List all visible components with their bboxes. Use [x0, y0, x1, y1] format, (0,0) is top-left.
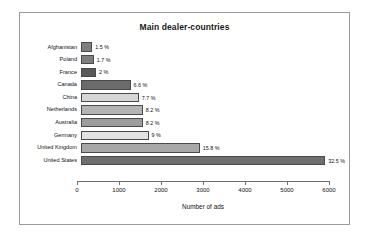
bar-value-label: 7.7 %: [139, 95, 156, 101]
bar-value-label: 8.2 %: [143, 120, 160, 126]
bar: [81, 105, 143, 114]
category-label: Poland: [20, 57, 81, 63]
x-axis-tick: [161, 181, 162, 185]
bar-value-label: 1.7 %: [94, 57, 111, 63]
bar-value-label: 2 %: [96, 69, 108, 75]
bar-track: 1.5 %: [81, 41, 351, 54]
bar: [81, 68, 96, 77]
bar: [81, 93, 139, 102]
bar: [81, 131, 149, 140]
x-axis-tick-label: 3000: [196, 187, 209, 193]
category-label: Germany: [20, 133, 81, 139]
bar-row: Poland1.7 %: [20, 54, 351, 67]
x-axis-tick: [329, 181, 330, 185]
bar-track: 7.7 %: [81, 91, 351, 104]
category-label: Netherlands: [20, 107, 81, 113]
bar-row: France2 %: [20, 66, 351, 79]
bar-row: Afghanistan1.5 %: [20, 41, 351, 54]
bar-row: Netherlands8.2 %: [20, 104, 351, 117]
x-axis-tick-label: 1000: [112, 187, 125, 193]
bar: [81, 80, 131, 89]
bar-row: Australia8.2 %: [20, 117, 351, 130]
bar-value-label: 15.8 %: [200, 145, 220, 151]
x-axis-tick: [119, 181, 120, 185]
bar-row: United States32.5 %: [20, 154, 351, 167]
x-axis-tick-label: 6000: [322, 187, 335, 193]
bar-track: 6.6 %: [81, 79, 351, 92]
x-axis-tick-label: 2000: [154, 187, 167, 193]
bar-track: 9 %: [81, 129, 351, 142]
bar: [81, 118, 143, 127]
category-label: United Kingdom: [20, 145, 81, 151]
x-axis-tick-label: 5000: [280, 187, 293, 193]
bar: [81, 156, 325, 165]
x-axis-tick: [287, 181, 288, 185]
category-label: China: [20, 95, 81, 101]
chart-title: Main dealer-countries: [20, 22, 349, 32]
bar-track: 15.8 %: [81, 142, 351, 155]
bar: [81, 55, 94, 64]
bar-value-label: 6.6 %: [131, 82, 148, 88]
bar-row: United Kingdom15.8 %: [20, 142, 351, 155]
x-axis-title: Number of ads: [77, 203, 329, 210]
plot-area: Afghanistan1.5 %Poland1.7 %France2 %Cana…: [20, 41, 351, 181]
x-axis-tick-label: 4000: [238, 187, 251, 193]
bar: [81, 143, 200, 152]
bar-value-label: 1.5 %: [92, 44, 109, 50]
chart-frame: Main dealer-countries Afghanistan1.5 %Po…: [19, 12, 350, 225]
x-axis-tick-label: 0: [75, 187, 78, 193]
bar-value-label: 9 %: [149, 132, 161, 138]
bar: [81, 42, 92, 51]
x-axis-tick: [245, 181, 246, 185]
category-label: France: [20, 70, 81, 76]
bar-track: 32.5 %: [81, 154, 351, 167]
category-label: Afghanistan: [20, 45, 81, 51]
x-axis-tick: [203, 181, 204, 185]
bar-row: Germany9 %: [20, 129, 351, 142]
category-label: United States: [20, 158, 81, 164]
bar-track: 8.2 %: [81, 104, 351, 117]
bar-row: Canada6.6 %: [20, 79, 351, 92]
category-label: Australia: [20, 120, 81, 126]
bar-value-label: 32.5 %: [325, 158, 345, 164]
bar-track: 1.7 %: [81, 54, 351, 67]
bar-row: China7.7 %: [20, 91, 351, 104]
bar-value-label: 8.2 %: [143, 107, 160, 113]
x-axis: Number of ads 0100020003000400050006000: [77, 181, 329, 221]
category-label: Canada: [20, 82, 81, 88]
bar-track: 8.2 %: [81, 117, 351, 130]
bar-track: 2 %: [81, 66, 351, 79]
x-axis-tick: [77, 181, 78, 185]
